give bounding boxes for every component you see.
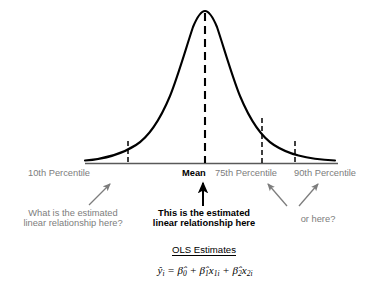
pointer-arrow-p75: [268, 184, 287, 206]
annotation-right: or here?: [288, 214, 348, 224]
annotation-center-line2: linear relationship here: [140, 218, 268, 228]
annotation-right-line1: or here?: [288, 214, 348, 224]
annotation-left: What is the estimated linear relationshi…: [8, 208, 138, 229]
distribution-figure: 10th Percentile Mean 75th Percentile 90t…: [0, 0, 388, 290]
formula-plus1: +: [187, 264, 200, 276]
axis-label-90th-percentile: 90th Percentile: [294, 168, 356, 178]
ols-estimates-heading: OLS Estimates: [140, 245, 268, 256]
axis-label-10th-percentile: 10th Percentile: [28, 168, 90, 178]
axis-label-75th-percentile: 75th Percentile: [215, 168, 277, 178]
annotation-left-line1: What is the estimated: [8, 208, 138, 218]
bell-curve-path: [85, 11, 335, 161]
pointer-arrow-p90: [299, 184, 318, 206]
ols-formula-svg: ŷi = β̂0 + β̂1x1i + β̂2x2i: [135, 260, 275, 280]
formula-x2-sub: 2i: [247, 269, 253, 278]
ols-estimates-heading-text: OLS Estimates: [172, 244, 236, 256]
formula-plus2: +: [220, 264, 233, 276]
formula-eq: =: [165, 264, 178, 276]
pointer-arrow-left: [89, 184, 110, 205]
ols-regression-formula: ŷi = β̂0 + β̂1x1i + β̂2x2i: [130, 260, 280, 283]
annotation-left-line2: linear relationship here?: [8, 218, 138, 228]
svg-text:ŷi = β̂0 + β̂1x1i + β̂2x2i: ŷi = β̂0 + β̂1x1i + β̂2x2i: [157, 264, 253, 278]
annotation-center: This is the estimated linear relationshi…: [140, 208, 268, 229]
axis-label-mean: Mean: [182, 168, 206, 178]
annotation-center-line1: This is the estimated: [140, 208, 268, 218]
